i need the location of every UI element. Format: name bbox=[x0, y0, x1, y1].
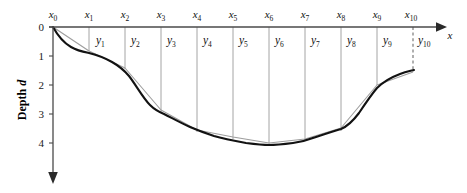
station-label-x9: x9 bbox=[372, 8, 382, 23]
figure-svg: 0 1 2 3 4 x Depth d x0 x1 x2 x3 x4 x5 x6… bbox=[0, 0, 467, 193]
strip-labels: y1 y2 y3 y4 y5 y6 y7 y8 y9 y10 bbox=[95, 34, 431, 49]
strip-label-y5: y5 bbox=[238, 34, 248, 49]
strip-label-y4: y4 bbox=[202, 34, 212, 49]
y-tick-label-0: 0 bbox=[39, 21, 45, 33]
y-tick-label-3: 3 bbox=[39, 108, 45, 120]
riverbed-cross-section-figure: 0 1 2 3 4 x Depth d x0 x1 x2 x3 x4 x5 x6… bbox=[0, 0, 467, 193]
y-axis bbox=[48, 27, 58, 184]
station-label-x0: x0 bbox=[48, 8, 58, 23]
y-axis-name: Depth d bbox=[15, 79, 29, 120]
y-axis-name-group: Depth d bbox=[15, 79, 29, 120]
station-label-x8: x8 bbox=[336, 8, 346, 23]
x-axis bbox=[49, 22, 447, 32]
y-axis-name-italic: d bbox=[15, 79, 29, 86]
station-label-x4: x4 bbox=[192, 8, 202, 23]
strip-label-y8: y8 bbox=[346, 34, 356, 49]
y-tick-labels: 0 1 2 3 4 bbox=[39, 21, 45, 149]
station-label-x6: x6 bbox=[264, 8, 274, 23]
y-axis-arrowhead bbox=[48, 172, 58, 184]
strip-label-y10: y10 bbox=[417, 34, 431, 49]
y-tick-label-1: 1 bbox=[39, 50, 45, 62]
station-label-x7: x7 bbox=[300, 8, 310, 23]
strip-label-y2: y2 bbox=[130, 34, 140, 49]
station-label-x2: x2 bbox=[120, 8, 130, 23]
strip-label-y1: y1 bbox=[95, 34, 105, 49]
station-label-x1: x1 bbox=[84, 8, 94, 23]
station-gridlines bbox=[53, 27, 413, 145]
x-axis-name: x bbox=[447, 29, 453, 41]
y-axis-name-main: Depth bbox=[15, 89, 29, 121]
strip-label-y9: y9 bbox=[382, 34, 392, 49]
y-tick-label-4: 4 bbox=[39, 137, 45, 149]
station-label-x3: x3 bbox=[156, 8, 166, 23]
riverbed-curve bbox=[53, 27, 414, 145]
strip-label-y7: y7 bbox=[310, 34, 320, 49]
station-label-x10: x10 bbox=[404, 8, 418, 23]
strip-label-y6: y6 bbox=[274, 34, 284, 49]
station-label-x5: x5 bbox=[228, 8, 238, 23]
strip-label-y3: y3 bbox=[166, 34, 176, 49]
x-axis-arrowhead bbox=[436, 22, 447, 32]
station-labels: x0 x1 x2 x3 x4 x5 x6 x7 x8 x9 x10 bbox=[48, 8, 418, 23]
y-tick-label-2: 2 bbox=[39, 79, 45, 91]
